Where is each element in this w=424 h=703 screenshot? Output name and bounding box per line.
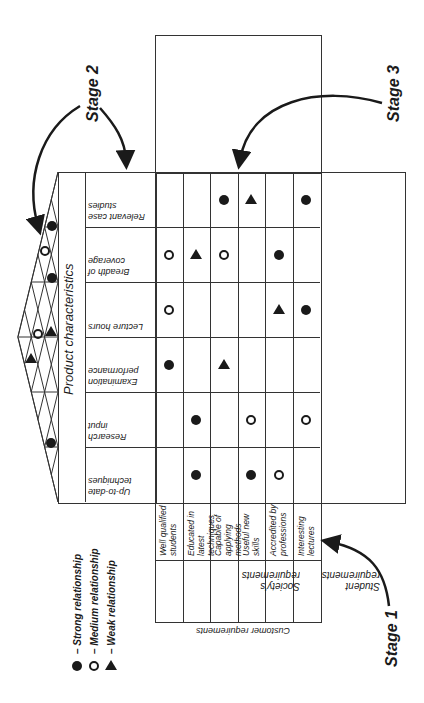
house-of-quality: Product characteristics Relevant case st…	[0, 0, 424, 703]
stage1-arrow	[330, 542, 389, 606]
stage3-arrow	[240, 96, 382, 160]
stage2-arrow-right	[100, 108, 126, 160]
stage-arrows	[0, 0, 424, 703]
stage2-arrow-left	[33, 106, 80, 226]
